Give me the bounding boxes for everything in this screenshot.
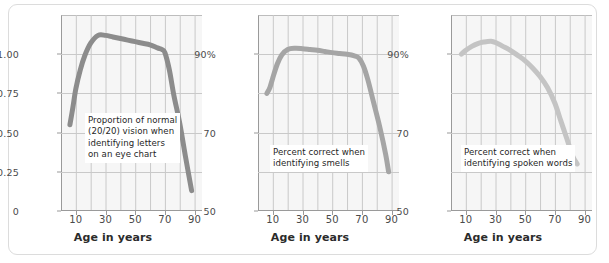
chart-panel-hearing: 507090% 1030507090 Percent correct when … [405,5,601,254]
y-tick-label: 90% [387,49,409,60]
x-tick-mark [273,211,274,215]
x-tick-label: 10 [266,214,279,225]
x-tick-mark [392,211,393,215]
x-tick-label: 10 [459,214,472,225]
plot-area-hearing [451,15,592,211]
x-tick-mark [362,211,363,215]
y-tick-label: 70 [204,127,217,138]
x-tick-mark [106,211,107,215]
plot-area-smell [258,15,399,211]
x-axis-line [258,210,399,211]
annotation-hearing: Percent correct when identifying spoken … [461,145,575,172]
y-tick-mark [447,211,451,212]
x-axis-title-smell: Age in years [212,231,408,244]
y-tick-mark [254,132,258,133]
y-tick-mark [57,54,61,55]
x-axis-line [61,210,202,211]
x-tick-label: 90 [578,214,591,225]
y-tick-label: 0.50 [0,127,19,138]
x-tick-mark [525,211,526,215]
y-tick-label: 50 [397,206,410,217]
x-tick-label: 30 [99,214,112,225]
x-tick-label: 50 [129,214,142,225]
data-line-hearing [451,15,592,211]
figure-container: 00.250.500.751.00 1030507090 Proportion … [8,4,597,255]
x-tick-label: 50 [326,214,339,225]
y-tick-label: 0.25 [0,166,19,177]
y-tick-label: 0.75 [0,88,19,99]
x-tick-mark [165,211,166,215]
x-axis-title-hearing: Age in years [405,231,601,244]
x-tick-mark [555,211,556,215]
x-tick-label: 70 [548,214,561,225]
x-tick-label: 70 [158,214,171,225]
x-tick-mark [332,211,333,215]
data-line-smell [258,15,399,211]
annotation-smell: Percent correct when identifying smells [270,145,368,172]
annotation-vision: Proportion of normal (20/20) vision when… [85,113,180,163]
x-tick-label: 30 [296,214,309,225]
x-tick-label: 30 [489,214,502,225]
y-tick-mark [57,93,61,94]
x-tick-mark [466,211,467,215]
y-tick-mark [57,132,61,133]
y-tick-mark [447,54,451,55]
y-tick-mark [254,54,258,55]
y-tick-label: 1.00 [0,49,19,60]
x-axis-line [451,210,592,211]
x-tick-label: 10 [69,214,82,225]
chart-panel-vision: 00.250.500.751.00 1030507090 Proportion … [15,5,211,254]
x-tick-label: 50 [519,214,532,225]
y-tick-mark [254,211,258,212]
chart-panel-smell: 507090% 1030507090 Percent correct when … [212,5,408,254]
y-tick-label: 50 [204,206,217,217]
y-tick-label: 90% [194,49,216,60]
y-tick-label: 70 [397,127,410,138]
x-tick-mark [76,211,77,215]
x-tick-mark [303,211,304,215]
x-tick-mark [135,211,136,215]
x-axis-title-vision: Age in years [15,231,211,244]
y-tick-mark [57,171,61,172]
y-tick-mark [447,132,451,133]
x-tick-mark [195,211,196,215]
x-tick-label: 90 [188,214,201,225]
x-tick-mark [496,211,497,215]
x-tick-label: 70 [355,214,368,225]
y-tick-mark [57,211,61,212]
y-tick-label: 0 [13,206,19,217]
x-tick-mark [585,211,586,215]
